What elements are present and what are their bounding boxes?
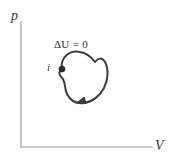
y-axis-label-pressure: p: [11, 9, 18, 23]
cycle-loop-path: [59, 52, 107, 103]
delta-internal-energy-label: ΔU = 0: [54, 38, 88, 50]
diagram-canvas: [0, 0, 172, 163]
cycle-direction-arrowhead: [78, 97, 87, 104]
initial-state-label: i: [47, 61, 50, 73]
x-axis-label-volume: V: [155, 139, 164, 153]
pv-diagram-figure: p V ΔU = 0 i: [0, 0, 172, 163]
initial-state-dot: [59, 66, 65, 72]
